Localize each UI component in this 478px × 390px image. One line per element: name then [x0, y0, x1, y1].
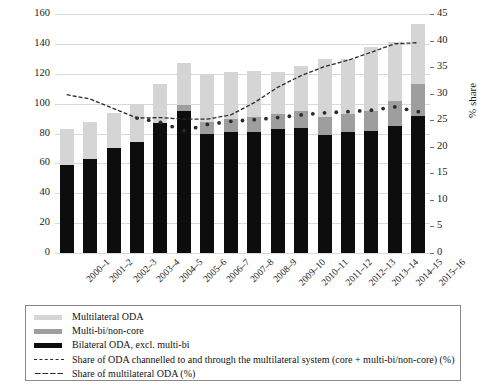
y-tick-left: 80 [18, 128, 50, 139]
dot-share-multilateral [287, 114, 291, 118]
y-tick-right: 40 [437, 35, 469, 46]
y-tick-mark-right [430, 67, 434, 68]
y-tick-mark-right [430, 120, 434, 121]
y-tick-right: 30 [437, 88, 469, 99]
legend-key-swatch [34, 338, 64, 352]
x-tick-label: 2006–7 [225, 257, 252, 284]
dot-share-multilateral [264, 117, 268, 121]
legend-label: Multilateral ODA [72, 312, 143, 322]
x-tick-label: 2000–1 [84, 257, 111, 284]
y-tick-right: 10 [437, 194, 469, 205]
dot-share-multilateral [241, 119, 245, 123]
y-tick-right: 35 [437, 61, 469, 72]
y-tick-right: 45 [437, 8, 469, 19]
y-tick-right: 25 [437, 114, 469, 125]
dot-share-multilateral [299, 113, 303, 117]
legend-share-multilateral[interactable]: Share of multilateral ODA (%) [34, 367, 454, 381]
dot-share-multilateral [194, 126, 198, 130]
y-tick-left: 60 [18, 157, 50, 168]
dot-share-multilateral [370, 108, 374, 112]
y-tick-right: 0 [437, 247, 469, 258]
legend-key-swatch [34, 310, 64, 324]
legend-multi-bi-non-core[interactable]: Multi-bi/non-core [34, 324, 454, 338]
y-tick-right: 15 [437, 167, 469, 178]
y-tick-mark-right [430, 94, 434, 95]
legend-label: Share of ODA channelled to and through t… [72, 355, 454, 365]
y-tick-left: 40 [18, 187, 50, 198]
chart-legend: Multilateral ODAMulti-bi/non-coreBilater… [25, 305, 461, 381]
x-tick-label: 2007–8 [248, 257, 275, 284]
plot-area [55, 14, 430, 253]
dot-share-multilateral [346, 110, 350, 114]
y-tick-mark-right [430, 253, 434, 254]
legend-label: Bilateral ODA, excl. multi-bi [72, 340, 189, 350]
dot-share-multilateral [170, 125, 174, 129]
legend-key-dotted [34, 367, 64, 381]
legend-swatch-icon [34, 329, 62, 334]
y-tick-mark-right [430, 41, 434, 42]
dot-share-multilateral [276, 116, 280, 120]
dot-share-multilateral [358, 109, 362, 113]
dot-share-multilateral [416, 110, 420, 114]
y-axis-right-title: % share [466, 83, 478, 118]
dot-share-multilateral [311, 112, 315, 116]
y-tick-left: 140 [18, 38, 50, 49]
y-tick-left: 160 [18, 8, 50, 19]
dot-share-multilateral [323, 111, 327, 115]
y-tick-mark-right [430, 14, 434, 15]
legend-dotted-line-icon [34, 372, 64, 375]
dot-share-multilateral [334, 110, 338, 114]
y-tick-left: 0 [18, 247, 50, 258]
x-tick-label: 2003–4 [154, 257, 181, 284]
x-tick-label: 2008–9 [272, 257, 299, 284]
x-tick-label: 2001–2 [108, 257, 135, 284]
legend-multilateral-oda[interactable]: Multilateral ODA [34, 310, 454, 324]
gridline [55, 253, 430, 254]
dot-share-multilateral [135, 116, 139, 120]
dot-share-multilateral [393, 105, 397, 109]
line-overlay [55, 14, 430, 253]
legend-label: Share of multilateral ODA (%) [72, 369, 195, 379]
y-tick-mark-right [430, 226, 434, 227]
dot-share-multilateral [182, 129, 186, 133]
x-tick-label: 2004–5 [178, 257, 205, 284]
y-tick-left: 100 [18, 98, 50, 109]
y-tick-left: 20 [18, 217, 50, 228]
legend-label: Multi-bi/non-core [72, 326, 144, 336]
legend-share-channelled[interactable]: Share of ODA channelled to and through t… [34, 353, 454, 367]
legend-key-swatch [34, 324, 64, 338]
legend-swatch-icon [34, 343, 62, 348]
dot-share-multilateral [205, 123, 209, 127]
dot-share-multilateral [252, 118, 256, 122]
x-tick-label: 2002–3 [131, 257, 158, 284]
dot-share-multilateral [405, 107, 409, 111]
chart-figure: 160140120100806040200 454035302520151050… [0, 0, 478, 390]
dot-share-multilateral [381, 107, 385, 111]
y-tick-mark-right [430, 147, 434, 148]
legend-bilateral-oda[interactable]: Bilateral ODA, excl. multi-bi [34, 338, 454, 352]
y-tick-mark-right [430, 200, 434, 201]
y-tick-mark-right [430, 173, 434, 174]
legend-dashed-line-icon [34, 359, 64, 360]
dot-share-multilateral [147, 118, 151, 122]
y-tick-left: 120 [18, 68, 50, 79]
legend-key-dashed [34, 353, 64, 367]
y-tick-right: 20 [437, 141, 469, 152]
y-tick-right: 5 [437, 220, 469, 231]
x-tick-label: 2005–6 [201, 257, 228, 284]
legend-swatch-icon [34, 315, 62, 320]
dot-share-multilateral [217, 121, 221, 125]
line-share-channelled [67, 43, 419, 119]
dot-share-multilateral [159, 120, 163, 124]
dot-share-multilateral [229, 119, 233, 123]
